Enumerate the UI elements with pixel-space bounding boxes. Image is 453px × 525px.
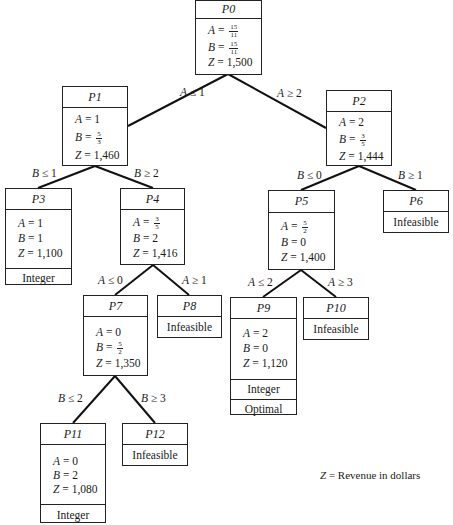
edge-p0-p2 (228, 74, 326, 128)
fraction: 1511 (229, 41, 238, 56)
var-b: B (339, 133, 346, 145)
edge-label-a-ge-1: A ≥ 1 (182, 274, 207, 286)
eq: = (60, 455, 72, 467)
status-infeasible: Infeasible (158, 317, 221, 338)
b-value: 2 (152, 232, 158, 244)
label-var: B (32, 167, 39, 179)
a-value: 1 (94, 113, 100, 125)
value-z: Z = 1,444 (339, 148, 391, 165)
var-b: B (243, 342, 250, 354)
var-a: A (133, 216, 140, 228)
z-value: 1,080 (72, 483, 98, 495)
node-values: A = 1511 B = 1511 Z = 1,500 (196, 19, 261, 73)
edge-label-a-ge-3: A ≥ 3 (328, 276, 353, 288)
node-title: P9 (231, 298, 296, 319)
edge-p0-p1 (128, 74, 228, 126)
eq: = (82, 113, 94, 125)
edge-label-b-ge-1: B ≥ 1 (398, 169, 423, 181)
status-infeasible: Infeasible (384, 212, 448, 233)
var-b: B (53, 469, 60, 481)
var-b: B (96, 341, 103, 353)
eq: = (103, 326, 115, 338)
label-op: ≤ 1 (39, 167, 57, 179)
label-var: A (248, 276, 255, 288)
denominator: 5 (360, 141, 366, 148)
eq: = (288, 220, 300, 232)
fraction: 35 (360, 133, 366, 148)
label-var: A (328, 276, 335, 288)
eq: = (250, 342, 262, 354)
eq: = (346, 116, 358, 128)
label-op: ≤ 2 (65, 392, 83, 404)
eq: = (24, 247, 36, 259)
fraction: 35 (154, 216, 160, 231)
label-op: ≥ 1 (405, 169, 423, 181)
var-a: A (243, 327, 250, 339)
value-z: Z = 1,460 (75, 146, 127, 164)
node-p5: P5 A = 52 B = 0 Z = 1,400 (268, 190, 335, 270)
label-var: B (297, 169, 304, 181)
var-b: B (208, 41, 215, 53)
legend-text: = Revenue in dollars (326, 469, 420, 481)
eq: = (345, 150, 357, 162)
edge-label-b-ge-2: B ≥ 2 (134, 167, 159, 179)
node-values: A = 2 B = 0 Z = 1,120 (231, 319, 296, 379)
eq: = (25, 217, 37, 229)
label-op: ≤ 2 (255, 276, 273, 288)
value-b: B = 0 (243, 341, 296, 356)
z-value: 1,120 (262, 357, 288, 369)
value-b: B = 1511 (208, 39, 261, 56)
node-title: P10 (304, 298, 368, 319)
node-values: A = 0 B = 52 Z = 1,350 (84, 317, 147, 375)
label-var: B (58, 392, 65, 404)
var-a: A (281, 220, 288, 232)
edge-label-a-le-0: A ≤ 0 (98, 274, 123, 286)
label-var: A (98, 274, 105, 286)
z-value: 1,460 (94, 149, 120, 161)
value-z: Z = 1,350 (96, 356, 147, 371)
var-b: B (133, 232, 140, 244)
eq: = (215, 41, 227, 53)
node-p6: P6 Infeasible (383, 190, 449, 233)
value-b: B = 53 (75, 128, 127, 146)
node-values: A = 2 B = 35 Z = 1,444 (327, 112, 391, 169)
value-a: A = 1 (75, 110, 127, 128)
eq: = (103, 341, 115, 353)
node-values: A = 35 B = 2 Z = 1,416 (121, 210, 184, 265)
value-a: A = 2 (339, 114, 391, 131)
a-value: 2 (358, 116, 364, 128)
value-a: A = 2 (243, 326, 296, 341)
node-p7: P7 A = 0 B = 52 Z = 1,350 (83, 295, 148, 376)
node-title: P11 (41, 424, 105, 445)
value-a: A = 1511 (208, 22, 261, 39)
fraction: 52 (302, 220, 308, 235)
node-title: P4 (121, 189, 184, 210)
edge-label-b-le-0: B ≤ 0 (297, 169, 322, 181)
denominator: 5 (154, 224, 160, 231)
value-z: Z = 1,500 (208, 56, 261, 69)
node-title: P12 (123, 424, 187, 445)
z-value: 1,416 (152, 247, 178, 259)
a-value: 2 (262, 327, 268, 339)
eq: = (214, 56, 226, 68)
node-p3: P3 A = 1 B = 1 Z = 1,100 Integer (5, 188, 72, 285)
value-b: B = 35 (339, 131, 391, 148)
node-p1: P1 A = 1 B = 53 Z = 1,460 (62, 86, 128, 166)
label-op: ≥ 1 (189, 274, 207, 286)
eq: = (140, 216, 152, 228)
a-value: 0 (72, 455, 78, 467)
status-integer: Integer (41, 504, 105, 525)
legend: Z = Revenue in dollars (320, 469, 420, 481)
denominator: 2 (117, 349, 123, 356)
label-op: ≥ 3 (148, 392, 166, 404)
eq: = (82, 131, 94, 143)
eq: = (249, 357, 261, 369)
fraction: 53 (96, 131, 102, 146)
value-z: Z = 1,080 (53, 482, 105, 496)
label-var: A (180, 86, 187, 98)
status-integer: Integer (6, 268, 71, 288)
node-p10: P10 Infeasible (303, 297, 369, 340)
z-value: 1,100 (37, 247, 63, 259)
node-values: A = 1 B = 53 Z = 1,460 (63, 108, 127, 168)
node-p11: P11 A = 0 B = 2 Z = 1,080 Integer (40, 423, 106, 523)
